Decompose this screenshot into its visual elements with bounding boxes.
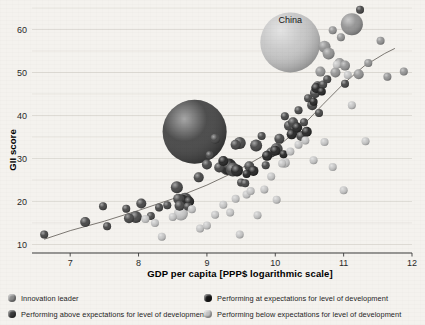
data-points [40,6,408,241]
svg-text:12: 12 [407,258,417,268]
svg-text:11: 11 [339,258,348,268]
svg-text:20: 20 [17,197,27,207]
chart-figure: 789101112102030405060 China GII score GD… [0,0,425,325]
svg-text:7: 7 [68,258,73,268]
axes [32,253,412,257]
legend-marker-icon [204,310,212,318]
svg-text:8: 8 [136,258,141,268]
annotations: China [279,15,303,25]
legend-item-innovation-leader[interactable]: Innovation leader [8,294,204,303]
legend-label: Performing at expectations for level of … [217,294,388,303]
legend-item-at-expectations[interactable]: Performing at expectations for level of … [204,294,417,303]
svg-text:50: 50 [17,68,27,78]
svg-text:60: 60 [17,25,27,35]
svg-text:30: 30 [17,154,27,164]
svg-text:40: 40 [17,111,27,121]
legend-label: Innovation leader [21,294,79,303]
chart-legend: Innovation leader Performing at expectat… [8,290,417,322]
svg-text:China: China [279,15,303,25]
legend-item-below-expectations[interactable]: Performing below expectations for level … [204,310,417,319]
legend-label: Performing below expectations for level … [217,310,401,319]
scatter-plot: 789101112102030405060 China GII score GD… [0,0,425,290]
svg-text:10: 10 [17,240,27,250]
svg-text:10: 10 [270,258,280,268]
legend-marker-icon [8,294,16,302]
y-axis-title: GII score [7,129,18,171]
legend-label: Performing above expectations for level … [21,310,206,319]
x-axis-title: GDP per capita [PPP$ logarithmic scale] [147,268,332,279]
legend-marker-icon [204,294,212,302]
svg-text:9: 9 [204,258,209,268]
legend-marker-icon [8,310,16,318]
legend-item-above-expectations[interactable]: Performing above expectations for level … [8,310,204,319]
